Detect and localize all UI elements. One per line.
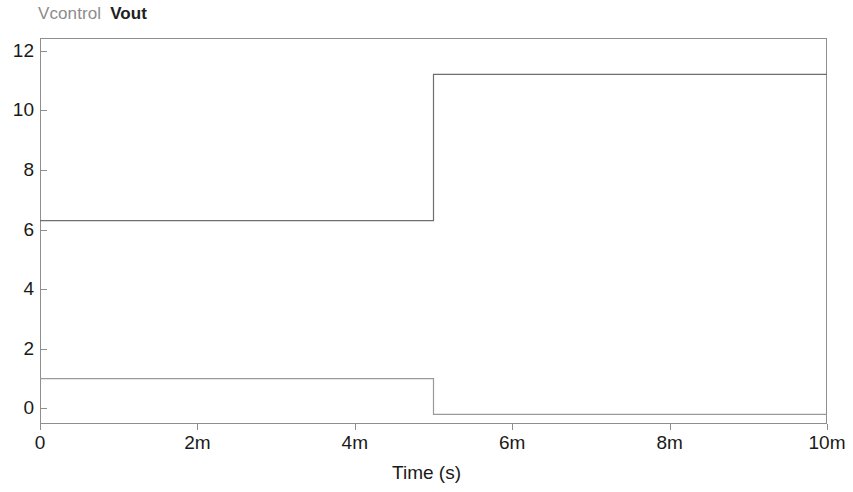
x-tick-label: 10m xyxy=(809,432,846,454)
x-tick-mark xyxy=(670,424,671,430)
x-tick-mark xyxy=(40,424,41,430)
x-tick-label: 4m xyxy=(342,432,368,454)
y-tick-mark xyxy=(40,289,47,290)
x-axis: 02m4m6m8m10m xyxy=(0,432,853,460)
y-tick-label: 6 xyxy=(4,220,34,239)
x-axis-title: Time (s) xyxy=(0,462,853,484)
x-tick-mark xyxy=(512,424,513,430)
y-tick-mark xyxy=(40,349,47,350)
x-tick-mark xyxy=(827,424,828,430)
y-tick-label: 0 xyxy=(4,398,34,417)
x-tick-mark xyxy=(355,424,356,430)
y-tick-label: 12 xyxy=(4,41,34,60)
x-tick-label: 6m xyxy=(499,432,525,454)
x-tick-label: 2m xyxy=(184,432,210,454)
x-tick-mark xyxy=(197,424,198,430)
y-tick-label: 10 xyxy=(4,100,34,119)
x-tick-label: 8m xyxy=(656,432,682,454)
y-tick-mark xyxy=(40,408,47,409)
legend-item-vout: Vout xyxy=(110,3,147,25)
y-tick-label: 4 xyxy=(4,279,34,298)
x-tick-label: 0 xyxy=(35,432,46,454)
y-tick-mark xyxy=(40,170,47,171)
chart-figure: Vcontrol Vout 024681012 02m4m6m8m10m Tim… xyxy=(0,0,853,492)
series-line-vcontrol xyxy=(40,379,827,415)
y-tick-mark xyxy=(40,230,47,231)
y-tick-label: 2 xyxy=(4,339,34,358)
chart-legend: Vcontrol Vout xyxy=(38,1,147,27)
plot-traces xyxy=(40,38,827,424)
y-tick-mark xyxy=(40,51,47,52)
y-axis: 024681012 xyxy=(0,0,34,492)
y-tick-mark xyxy=(40,110,47,111)
y-tick-label: 8 xyxy=(4,160,34,179)
series-line-vout xyxy=(40,74,827,220)
legend-item-vcontrol: Vcontrol xyxy=(38,3,101,25)
